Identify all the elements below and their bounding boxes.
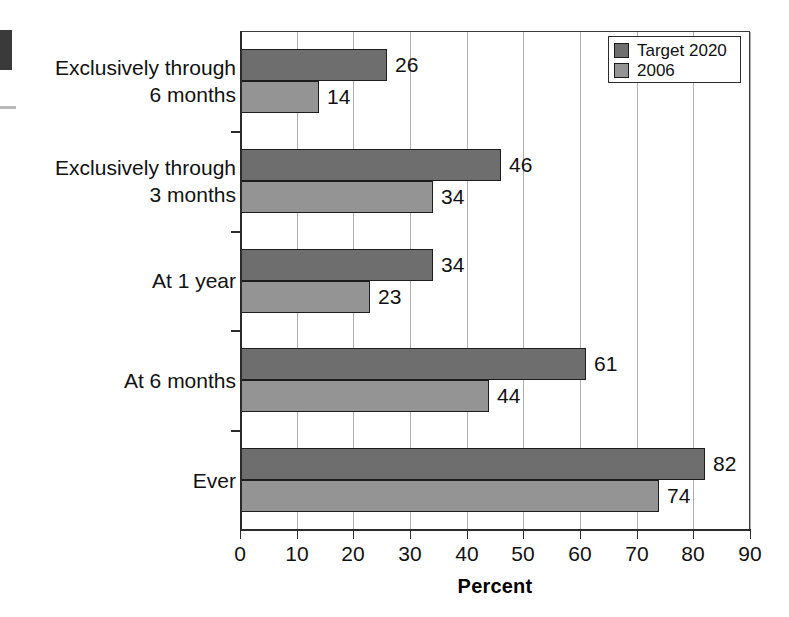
bar: [240, 380, 489, 412]
bar: [240, 181, 433, 213]
category-label: Exclusively through 6 months: [0, 54, 236, 108]
bar-value-label: 61: [594, 352, 617, 376]
chart-canvas: 26144634342361448274 Exclusively through…: [0, 0, 789, 617]
x-axis-title: Percent: [240, 575, 750, 598]
legend-swatch-2006: [614, 63, 629, 78]
legend-item-2006: 2006: [614, 60, 735, 80]
x-tick-40: [467, 531, 468, 539]
bar-value-label: 46: [509, 153, 532, 177]
legend-label-target-2020: Target 2020: [637, 41, 727, 60]
bar-value-label: 82: [713, 452, 736, 476]
x-tick-70: [637, 531, 638, 539]
legend-item-target-2020: Target 2020: [614, 40, 735, 60]
bar: [240, 281, 370, 313]
x-tick-label-40: 40: [437, 541, 497, 567]
x-tick-90: [750, 531, 751, 539]
x-tick-label-90: 90: [720, 541, 780, 567]
chart-legend: Target 2020 2006: [608, 36, 741, 83]
y-axis-line: [240, 31, 242, 531]
bar: [240, 81, 319, 113]
x-tick-label-60: 60: [550, 541, 610, 567]
bar-value-label: 34: [441, 185, 464, 209]
bar: [240, 480, 659, 512]
legend-swatch-target-2020: [614, 43, 629, 58]
x-tick-50: [523, 531, 524, 539]
x-tick-label-30: 30: [380, 541, 440, 567]
x-tick-label-50: 50: [493, 541, 553, 567]
bar: [240, 448, 705, 480]
x-tick-30: [410, 531, 411, 539]
legend-label-2006: 2006: [637, 61, 675, 80]
x-tick-label-70: 70: [607, 541, 667, 567]
x-tick-label-20: 20: [323, 541, 383, 567]
bar-value-label: 44: [497, 384, 520, 408]
x-tick-0: [240, 531, 241, 539]
bar-value-label: 14: [327, 85, 350, 109]
x-tick-20: [353, 531, 354, 539]
bar: [240, 249, 433, 281]
bar-value-label: 26: [395, 53, 418, 77]
bar: [240, 49, 387, 81]
category-label: At 1 year: [0, 267, 236, 294]
bar-value-label: 74: [667, 484, 690, 508]
x-tick-80: [693, 531, 694, 539]
x-tick-10: [297, 531, 298, 539]
bar: [240, 149, 501, 181]
x-axis-line: [240, 529, 751, 531]
category-label: Exclusively through 3 months: [0, 154, 236, 208]
x-tick-label-10: 10: [267, 541, 327, 567]
bar: [240, 348, 586, 380]
bar-value-label: 23: [378, 285, 401, 309]
bar-value-label: 34: [441, 253, 464, 277]
gridline-90: [750, 32, 751, 529]
x-tick-60: [580, 531, 581, 539]
category-label: Ever: [0, 467, 236, 494]
x-tick-label-0: 0: [210, 541, 270, 567]
category-label: At 6 months: [0, 367, 236, 394]
x-tick-label-80: 80: [663, 541, 723, 567]
